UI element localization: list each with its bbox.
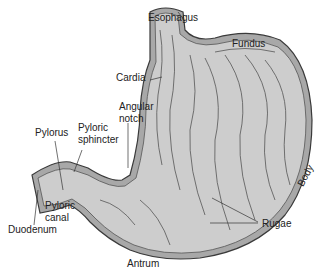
label-cardia: Cardia xyxy=(116,72,145,83)
label-esophagus: Esophagus xyxy=(148,12,198,23)
label-fundus: Fundus xyxy=(232,38,265,49)
label-pylorus: Pylorus xyxy=(35,127,68,138)
label-pyloric-sphincter-line2: sphincter xyxy=(78,134,119,145)
label-duodenum: Duodenum xyxy=(8,224,57,235)
label-pyloric-canal-line2: canal xyxy=(45,212,69,223)
label-pyloric-canal-line1: Pyloric xyxy=(45,200,75,211)
label-rugae: Rugae xyxy=(262,218,291,229)
label-pyloric-sphincter-line1: Pyloric xyxy=(78,122,108,133)
label-angular-notch-line2: notch xyxy=(119,113,143,124)
label-antrum: Antrum xyxy=(127,258,159,269)
label-angular-notch-line1: Angular xyxy=(119,101,153,112)
